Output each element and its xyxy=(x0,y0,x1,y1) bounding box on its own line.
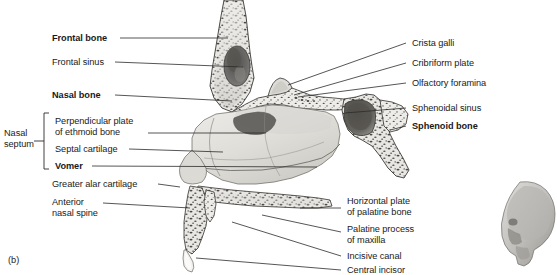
leader-line xyxy=(92,166,317,167)
leader-line xyxy=(345,108,406,113)
leader-line xyxy=(262,215,341,232)
label-crista-galli: Crista galli xyxy=(412,38,454,49)
label-perpendicular-plate: Perpendicular plate of ethmoid bone xyxy=(55,116,133,139)
label-vomer: Vomer xyxy=(55,161,83,172)
label-cribriform-plate: Cribriform plate xyxy=(412,58,474,69)
group-label-nasal-septum: Nasal septum xyxy=(4,128,34,151)
nasal-septum-figure: Frontal boneFrontal sinusNasal bonePerpe… xyxy=(0,0,557,275)
label-olfactory-foramina: Olfactory foramina xyxy=(412,78,486,89)
leader-line xyxy=(288,43,406,85)
label-incisive-canal: Incisive canal xyxy=(347,251,401,262)
label-horizontal-plate-palatine: Horizontal plate of palatine bone xyxy=(347,196,412,219)
leader-line xyxy=(390,126,406,130)
label-anterior-nasal-spine: Anterior nasal spine xyxy=(52,197,98,220)
leader-line xyxy=(232,222,341,256)
figure-caption: (b) xyxy=(8,255,19,265)
nasal-septum-bracket xyxy=(44,113,49,169)
label-nasal-bone: Nasal bone xyxy=(52,90,101,101)
label-septal-cartilage: Septal cartilage xyxy=(55,144,118,155)
label-sphenoid-bone: Sphenoid bone xyxy=(412,121,478,132)
leader-line xyxy=(196,258,341,270)
label-frontal-sinus: Frontal sinus xyxy=(52,57,104,68)
leader-line xyxy=(115,95,232,101)
leader-line xyxy=(158,184,180,187)
label-sphenoidal-sinus: Sphenoidal sinus xyxy=(412,103,481,114)
leader-line xyxy=(298,83,406,97)
label-greater-alar-cartilage: Greater alar cartilage xyxy=(52,179,137,190)
label-palatine-process-maxilla: Palatine process of maxilla xyxy=(347,224,414,247)
label-central-incisor: Central incisor xyxy=(347,265,405,275)
leader-line xyxy=(129,149,223,152)
leader-line xyxy=(115,62,243,67)
leader-line xyxy=(103,203,190,208)
label-frontal-bone: Frontal bone xyxy=(52,33,107,44)
